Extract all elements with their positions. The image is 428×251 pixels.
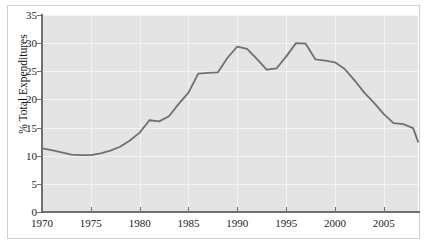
x-tick-label: 2000 [315, 218, 355, 229]
x-tick-label: 1990 [217, 218, 257, 229]
chart-figure: 05101520253035 1970197519801985199019952… [0, 0, 428, 251]
x-tick-label: 1975 [71, 218, 111, 229]
x-tick-label: 1985 [168, 218, 208, 229]
x-tick-mark [188, 207, 189, 212]
x-tick-label: 1995 [266, 218, 306, 229]
x-tick-mark [286, 207, 287, 212]
x-tick-label: 2005 [364, 218, 404, 229]
x-tick-mark [384, 207, 385, 212]
x-axis-ticks: 19701975198019851990199520002005 [0, 0, 428, 251]
y-axis-title: % Total Expenditures [17, 9, 29, 159]
x-tick-label: 1970 [22, 218, 62, 229]
x-tick-mark [335, 207, 336, 212]
x-tick-mark [237, 207, 238, 212]
x-tick-mark [91, 207, 92, 212]
x-tick-label: 1980 [120, 218, 160, 229]
x-tick-mark [140, 207, 141, 212]
